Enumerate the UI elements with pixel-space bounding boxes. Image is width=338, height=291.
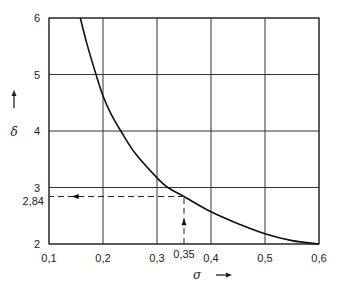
y-tick-label: 5 [34, 69, 40, 81]
y-axis-arrow-icon [12, 90, 17, 108]
arrow-left-icon [72, 194, 79, 199]
y-axis-label: δ [10, 125, 17, 139]
arrow-up-icon [182, 218, 187, 225]
y-tick-label: 4 [34, 125, 40, 137]
x-axis-arrow-icon [216, 273, 232, 278]
guide-arrowheads [72, 194, 187, 225]
x-tick-label: 0,5 [257, 252, 272, 264]
x-axis-label: σ [193, 268, 202, 282]
y-tick-label: 2 [34, 238, 40, 250]
chart: 0,10,20,30,40,50,6 23456 0,35 2,84 σ δ [0, 0, 338, 291]
x-tick-label: 0,6 [311, 252, 326, 264]
y-tick-label: 3 [34, 182, 40, 194]
x-tick-label: 0,4 [203, 252, 218, 264]
x-tick-label: 0,2 [95, 252, 110, 264]
x-tick-label: 0,3 [149, 252, 164, 264]
y-marker-label: 2,84 [23, 195, 44, 207]
dashed-guides [49, 197, 184, 244]
y-tick-labels: 23456 [34, 12, 40, 250]
x-marker-label: 0,35 [173, 248, 194, 260]
y-tick-label: 6 [34, 12, 40, 24]
x-tick-label: 0,1 [41, 252, 56, 264]
